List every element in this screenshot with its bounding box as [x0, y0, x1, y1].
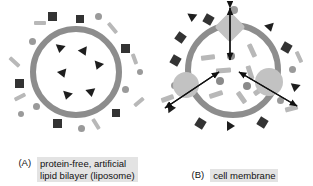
arrow-right-in: [239, 72, 297, 106]
panel-a-liposome: (A) protein-free, artificial lipid bilay…: [0, 0, 156, 186]
panel-a-caption: (A) protein-free, artificial lipid bilay…: [0, 157, 156, 182]
panel-a-illustration: [0, 0, 156, 142]
panel-b-caption-line1: cell membrane: [213, 170, 275, 182]
particle-bar: [14, 92, 26, 101]
particle-circle: [122, 86, 129, 93]
particle-circle: [29, 38, 36, 45]
lipid-bilayer-ring: [30, 26, 122, 118]
particle-square: [15, 79, 24, 88]
particle-square: [76, 15, 84, 23]
particle-bar: [34, 21, 46, 25]
particle-bar: [91, 118, 101, 130]
particle-circle: [78, 125, 85, 132]
figure-two-panel-membrane-diagram: (A) protein-free, artificial lipid bilay…: [0, 0, 313, 186]
particle-square: [53, 119, 62, 128]
panel-b-cell-membrane: (B) cell membrane: [157, 0, 313, 186]
particle-bar: [131, 53, 139, 65]
panel-b-letter: (B): [192, 169, 205, 181]
interior-triangle: [54, 44, 65, 54]
particle-square: [112, 109, 120, 117]
particle-bar: [8, 56, 20, 68]
particle-circle: [95, 13, 102, 20]
particle-circle: [33, 103, 40, 110]
panel-a-caption-line2: lipid bilayer (liposome): [40, 170, 135, 182]
interior-triangle: [85, 88, 96, 98]
panel-a-caption-line1: protein-free, artificial: [40, 158, 135, 170]
particle-circle: [18, 111, 24, 117]
particle-square: [121, 44, 130, 53]
particle-square: [48, 12, 57, 21]
transport-arrows: [157, 0, 313, 142]
panel-b-illustration: [157, 0, 313, 142]
particle-circle: [137, 69, 143, 75]
particle-bar: [107, 22, 118, 35]
panel-a-letter: (A): [18, 157, 31, 169]
arrow-left-in: [165, 72, 219, 108]
particle-bar: [133, 97, 145, 108]
panel-a-caption-text: protein-free, artificial lipid bilayer (…: [37, 157, 138, 182]
panel-b-caption-text: cell membrane: [210, 169, 278, 183]
panel-b-caption: (B) cell membrane: [157, 169, 313, 183]
